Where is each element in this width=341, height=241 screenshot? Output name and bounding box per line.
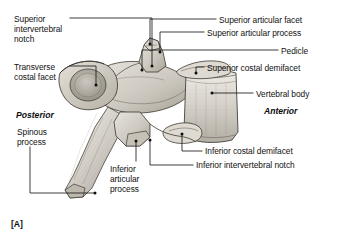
label-superior-costal-demifacet: Superior costal demifacet xyxy=(207,63,300,73)
inferior-articular-process-shape xyxy=(114,112,150,146)
label-inferior-costal-demifacet: Inferior costal demifacet xyxy=(205,146,293,156)
label-vertebral-body: Vertebral body xyxy=(256,89,309,99)
label-pedicle: Pedicle xyxy=(281,46,308,56)
label-inferior-articular-process: Inferior articular process xyxy=(110,164,139,195)
label-transverse-costal-facet: Transverse costal facet xyxy=(14,62,56,82)
label-superior-articular-facet: Superior articular facet xyxy=(219,15,302,25)
orientation-label-anterior: Anterior xyxy=(264,106,297,116)
label-inferior-intervertebral-notch: Inferior intervertebral notch xyxy=(196,160,295,170)
anatomy-figure: Superior intervertebral notch Transverse… xyxy=(0,0,341,241)
orientation-label-posterior: Posterior xyxy=(16,110,54,120)
label-superior-articular-process: Superior articular process xyxy=(207,28,301,38)
figure-caption: [A] xyxy=(11,219,23,229)
vertebra-drawing xyxy=(59,38,238,198)
label-spinous-process: Spinous process xyxy=(17,127,47,147)
superior-articular-process-shape xyxy=(139,38,166,72)
label-superior-intervertebral-notch: Superior intervertebral notch xyxy=(14,14,62,45)
transverse-costal-facet-shape xyxy=(59,61,118,110)
inferior-costal-demifacet-shape xyxy=(163,123,202,144)
